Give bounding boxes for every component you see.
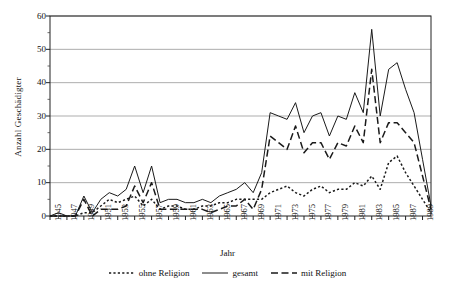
legend-label: ohne Religion bbox=[139, 268, 190, 278]
x-tick-label-1981: 1981 bbox=[358, 204, 367, 221]
x-tick-label-1959: 1959 bbox=[172, 204, 181, 221]
y-tick-label-10: 10 bbox=[26, 178, 46, 187]
y-tick-label-20: 20 bbox=[26, 145, 46, 154]
x-tick-label-1977: 1977 bbox=[324, 204, 333, 221]
series-line-gesamt bbox=[50, 29, 431, 216]
legend-item-gesamt[interactable]: gesamt bbox=[202, 268, 258, 278]
x-tick-label-1975: 1975 bbox=[308, 204, 317, 221]
x-tick-label-1945: 1945 bbox=[54, 204, 63, 221]
x-tick-label-1973: 1973 bbox=[291, 204, 300, 221]
legend-swatch-icon bbox=[271, 269, 297, 277]
x-tick-label-1949: 1949 bbox=[87, 204, 96, 221]
x-axis-title: Jahr bbox=[0, 248, 455, 258]
y-tick-label-50: 50 bbox=[26, 45, 46, 54]
y-tick-label-30: 30 bbox=[26, 112, 46, 121]
x-tick-label-1967: 1967 bbox=[240, 204, 249, 221]
y-tick-label-40: 40 bbox=[26, 78, 46, 87]
x-tick-label-1989: 1989 bbox=[426, 204, 435, 221]
x-tick-label-1947: 1947 bbox=[70, 204, 79, 221]
x-tick-label-1965: 1965 bbox=[223, 204, 232, 221]
x-tick-label-1957: 1957 bbox=[155, 204, 164, 221]
x-tick-label-1985: 1985 bbox=[392, 204, 401, 221]
legend-label: gesamt bbox=[232, 268, 258, 278]
x-tick-label-1955: 1955 bbox=[138, 204, 147, 221]
legend-item-mit-religion[interactable]: mit Religion bbox=[271, 268, 346, 278]
chart-legend: ohne Religiongesamtmit Religion bbox=[0, 268, 455, 278]
chart-container: Anzahl Geschädigter 0102030405060 194519… bbox=[0, 0, 455, 295]
x-tick-label-1963: 1963 bbox=[206, 204, 215, 221]
y-tick-label-0: 0 bbox=[26, 212, 46, 221]
x-tick-label-1953: 1953 bbox=[121, 204, 130, 221]
legend-swatch-icon bbox=[202, 269, 228, 277]
x-tick-label-1969: 1969 bbox=[257, 204, 266, 221]
y-tick-label-60: 60 bbox=[26, 12, 46, 21]
x-tick-label-1987: 1987 bbox=[409, 204, 418, 221]
x-tick-label-1961: 1961 bbox=[189, 204, 198, 221]
y-axis-title: Anzahl Geschädigter bbox=[13, 37, 23, 197]
x-tick-label-1983: 1983 bbox=[375, 204, 384, 221]
legend-item-ohne-religion[interactable]: ohne Religion bbox=[109, 268, 190, 278]
x-tick-label-1971: 1971 bbox=[274, 204, 283, 221]
legend-label: mit Religion bbox=[301, 268, 346, 278]
legend-swatch-icon bbox=[109, 269, 135, 277]
x-tick-label-1979: 1979 bbox=[341, 204, 350, 221]
x-tick-label-1951: 1951 bbox=[104, 204, 113, 221]
